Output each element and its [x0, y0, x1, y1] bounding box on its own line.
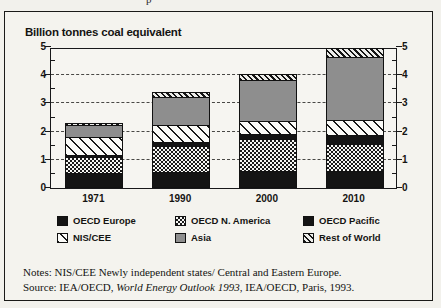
- bar-segment-oecd-europe-1990[interactable]: [152, 172, 210, 188]
- bar-segment-nis-cee-2010[interactable]: [326, 120, 384, 136]
- bar-group-2000[interactable]: [239, 74, 297, 188]
- bar-segment-nis-cee-1971[interactable]: [65, 137, 123, 156]
- source-suffix: , IEA/OECD, Paris, 1993.: [240, 281, 355, 293]
- figure-frame: Billion tonnes coal equivalent 001122334…: [4, 11, 433, 301]
- plot-area: 001122334455: [50, 48, 397, 189]
- x-axis-label-1990: 1990: [151, 193, 209, 204]
- y-axis-label-right-3: 3: [402, 98, 408, 108]
- bar-segment-asia-2010[interactable]: [326, 57, 384, 120]
- source-line: Source: IEA/OECD, World Energy Outlook 1…: [23, 280, 418, 295]
- x-axis-label-1971: 1971: [64, 193, 122, 204]
- legend-item-oecd-europe[interactable]: OECD Europe: [57, 215, 175, 226]
- legend-label: Asia: [191, 232, 211, 243]
- bar-segment-oecd-n-america-2000[interactable]: [239, 139, 297, 171]
- legend-item-nis-cee[interactable]: NIS/CEE: [57, 232, 175, 243]
- bar-segment-asia-1990[interactable]: [152, 97, 210, 125]
- bar-segment-nis-cee-1990[interactable]: [152, 125, 210, 142]
- legend-swatch-icon: [57, 216, 68, 226]
- y-axis-label-left-2: 2: [40, 127, 46, 137]
- bar-segment-oecd-europe-2010[interactable]: [326, 171, 384, 188]
- y-axis-label-right-2: 2: [402, 127, 408, 137]
- legend-label: Rest of World: [319, 232, 381, 243]
- y-axis-label-left-1: 1: [40, 155, 46, 165]
- legend-item-oecd-n-america[interactable]: OECD N. America: [175, 215, 303, 226]
- y-minor-tick: [392, 60, 396, 61]
- legend-label: OECD N. America: [191, 215, 270, 226]
- y-axis-label-left-0: 0: [40, 183, 46, 193]
- bar-segment-oecd-n-america-1990[interactable]: [152, 146, 210, 172]
- legend-item-asia[interactable]: Asia: [175, 232, 303, 243]
- y-axis-label-right-5: 5: [402, 42, 408, 52]
- chart-panel: Billion tonnes coal equivalent 001122334…: [5, 12, 432, 257]
- y-minor-tick: [392, 117, 396, 118]
- y-minor-tick: [392, 145, 396, 146]
- legend-swatch-icon: [303, 233, 314, 243]
- cutoff-text-fragment: p: [146, 0, 162, 5]
- bar-segment-oecd-n-america-2010[interactable]: [326, 144, 384, 170]
- bar-segment-oecd-pacific-2010[interactable]: [326, 135, 384, 144]
- y-minor-tick: [51, 88, 55, 89]
- chart-legend: OECD EuropeOECD N. AmericaOECD PacificNI…: [57, 212, 387, 246]
- legend-swatch-icon: [175, 216, 186, 226]
- legend-label: OECD Pacific: [319, 215, 380, 226]
- legend-label: OECD Europe: [73, 215, 136, 226]
- bar-segment-rest-of-world-2010[interactable]: [326, 48, 384, 56]
- legend-item-oecd-pacific[interactable]: OECD Pacific: [303, 215, 387, 226]
- y-minor-tick: [51, 60, 55, 61]
- legend-label: NIS/CEE: [73, 232, 111, 243]
- bar-segment-nis-cee-2000[interactable]: [239, 121, 297, 134]
- source-prefix: Source: IEA/OECD,: [23, 281, 116, 293]
- bar-group-1990[interactable]: [152, 92, 210, 188]
- bar-group-1971[interactable]: [65, 123, 123, 188]
- bar-segment-asia-2000[interactable]: [239, 80, 297, 121]
- bar-segment-asia-1971[interactable]: [65, 125, 123, 136]
- y-minor-tick: [51, 117, 55, 118]
- x-axis-label-2000: 2000: [238, 193, 296, 204]
- chart-axis-title: Billion tonnes coal equivalent: [25, 26, 181, 38]
- y-axis-label-right-0: 0: [402, 183, 408, 193]
- legend-swatch-icon: [57, 233, 68, 243]
- bar-segment-oecd-europe-1971[interactable]: [65, 173, 123, 189]
- bar-group-2010[interactable]: [326, 48, 384, 188]
- y-axis-label-left-5: 5: [40, 42, 46, 52]
- y-minor-tick: [392, 173, 396, 174]
- notes-block: Notes: NIS/CEE Newly independent states/…: [23, 265, 418, 294]
- y-axis-label-right-4: 4: [402, 70, 408, 80]
- notes-line: Notes: NIS/CEE Newly independent states/…: [23, 265, 418, 280]
- source-title: World Energy Outlook 1993: [116, 281, 240, 293]
- y-minor-tick: [51, 173, 55, 174]
- y-axis-label-left-3: 3: [40, 98, 46, 108]
- legend-item-rest-of-world[interactable]: Rest of World: [303, 232, 387, 243]
- y-axis-label-left-4: 4: [40, 70, 46, 80]
- y-minor-tick: [392, 88, 396, 89]
- y-axis-label-right-1: 1: [402, 155, 408, 165]
- x-axis-label-2010: 2010: [325, 193, 383, 204]
- bar-segment-oecd-europe-2000[interactable]: [239, 171, 297, 188]
- legend-swatch-icon: [303, 216, 314, 226]
- legend-swatch-icon: [175, 233, 186, 243]
- bar-segment-oecd-n-america-1971[interactable]: [65, 157, 123, 173]
- y-minor-tick: [51, 145, 55, 146]
